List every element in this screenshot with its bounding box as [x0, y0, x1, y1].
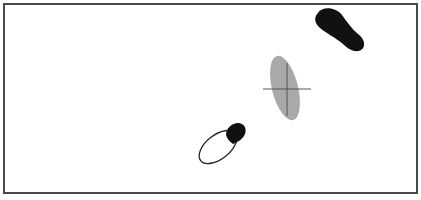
center-ellipse-shape [264, 53, 305, 123]
diagram-canvas [0, 0, 421, 200]
outlined-footprint-icon [193, 123, 245, 170]
center-ellipse-icon [264, 53, 305, 123]
filled-footprint-shape [315, 8, 364, 51]
filled-footprint-icon [315, 8, 364, 51]
